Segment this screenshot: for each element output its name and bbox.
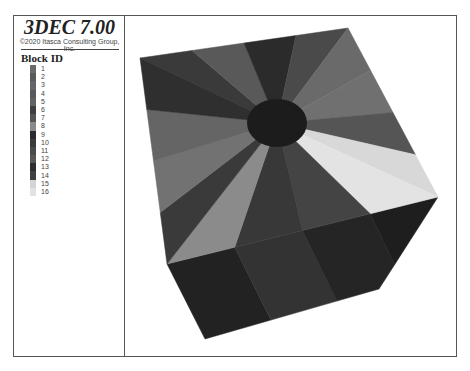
legend-item: 15 [30, 180, 49, 188]
legend-item: 12 [30, 155, 49, 163]
legend-label: 9 [41, 131, 45, 139]
legend-item: 7 [30, 114, 49, 122]
legend-label: 14 [41, 172, 49, 180]
legend-item: 1 [30, 65, 49, 73]
legend-label: 10 [41, 139, 49, 147]
legend-label: 11 [41, 147, 48, 155]
legend-list: 12345678910111213141516 [30, 65, 49, 196]
plot-frame: 3DEC 7.00 ©2020 Itasca Consulting Group,… [13, 15, 457, 357]
legend-item: 10 [30, 139, 49, 147]
legend-swatch [30, 81, 36, 89]
legend-item: 5 [30, 98, 49, 106]
legend-label: 15 [41, 180, 49, 188]
legend-heading: Block ID [21, 52, 63, 64]
legend-panel: 3DEC 7.00 ©2020 Itasca Consulting Group,… [14, 16, 125, 356]
legend-item: 4 [30, 90, 49, 98]
legend-label: 5 [41, 98, 45, 106]
legend-label: 7 [41, 114, 45, 122]
legend-label: 13 [41, 163, 49, 171]
legend-swatch [30, 163, 36, 171]
legend-item: 3 [30, 81, 49, 89]
legend-swatch [30, 98, 36, 106]
legend-label: 1 [41, 65, 45, 73]
legend-swatch [30, 90, 36, 98]
legend-label: 16 [41, 188, 49, 196]
legend-item: 6 [30, 106, 49, 114]
legend-swatch [30, 188, 36, 196]
legend-swatch [30, 122, 36, 130]
app-title: 3DEC 7.00 [14, 16, 125, 38]
legend-swatch [30, 147, 36, 155]
legend-label: 12 [41, 155, 49, 163]
legend-swatch [30, 155, 36, 163]
legend-swatch [30, 73, 36, 81]
legend-item: 14 [30, 171, 49, 179]
legend-swatch [30, 65, 36, 73]
legend-item: 13 [30, 163, 49, 171]
legend-label: 8 [41, 122, 45, 130]
model-viewport[interactable] [125, 16, 457, 356]
legend-divider [21, 49, 119, 50]
block-model-3d[interactable] [125, 16, 457, 356]
legend-swatch [30, 106, 36, 114]
legend-label: 4 [41, 90, 45, 98]
legend-item: 8 [30, 122, 49, 130]
legend-swatch [30, 171, 36, 179]
legend-item: 16 [30, 188, 49, 196]
legend-swatch [30, 139, 36, 147]
legend-swatch [30, 180, 36, 188]
legend-swatch [30, 131, 36, 139]
legend-item: 2 [30, 73, 49, 81]
legend-swatch [30, 114, 36, 122]
central-hole [247, 99, 307, 147]
legend-label: 2 [41, 73, 45, 81]
legend-item: 11 [30, 147, 49, 155]
legend-label: 6 [41, 106, 45, 114]
legend-label: 3 [41, 81, 45, 89]
legend-item: 9 [30, 131, 49, 139]
